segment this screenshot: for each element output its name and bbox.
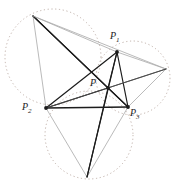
seg-C-P2 [46, 108, 87, 177]
point-label-p: P [90, 78, 96, 88]
seg-A-P2 [33, 16, 46, 108]
seg-C-P3 [87, 107, 128, 177]
circle-right [96, 41, 170, 115]
dot-P1 [115, 50, 119, 54]
circle-left [5, 9, 101, 105]
segments-layer [33, 16, 166, 177]
dot-P2 [44, 106, 48, 110]
point-label-p1: P1 [110, 31, 120, 44]
seg-B-P1 [117, 52, 166, 69]
seg-P1-P2 [46, 52, 117, 108]
seg-P2-P3 [46, 107, 128, 108]
figure-canvas [0, 0, 176, 190]
circles-layer [5, 9, 170, 179]
geometry-figure: P1 P2 P3 P [0, 0, 176, 190]
seg-A-B [33, 16, 166, 69]
point-label-p3: P3 [130, 108, 140, 121]
point-label-p2: P2 [22, 102, 32, 115]
seg-B-P3 [128, 69, 166, 107]
vertex-dots-layer [44, 50, 130, 110]
seg-B-P2 [46, 69, 166, 108]
seg-C-P1 [87, 52, 117, 177]
dot-P [106, 86, 110, 90]
